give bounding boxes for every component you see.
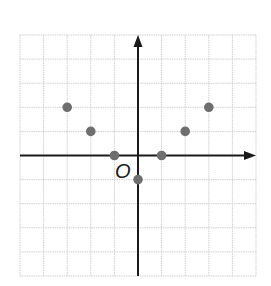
data-point [157,151,167,161]
data-point [204,103,214,113]
data-point [86,127,96,137]
y-axis-arrow-icon [134,35,143,47]
coordinate-plane [0,0,271,286]
data-point [62,103,72,113]
axes [20,35,256,276]
data-point [110,151,120,161]
data-point [133,175,143,185]
origin-label: O [115,161,131,181]
x-axis-arrow-icon [244,151,256,160]
data-point [180,127,190,137]
